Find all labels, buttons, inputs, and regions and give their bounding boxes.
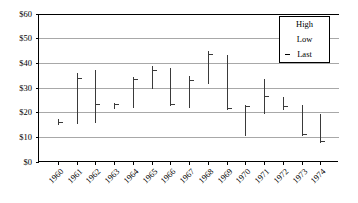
last-tick-marker: [115, 104, 119, 105]
x-tick-mark: [208, 161, 209, 165]
legend-entry-high: High: [280, 17, 329, 32]
y-tick-label: $60: [2, 10, 32, 19]
gridline: [39, 112, 339, 113]
last-tick-marker: [321, 141, 325, 142]
legend-entry-low: Low: [280, 32, 329, 47]
legend-label-last: Last: [297, 50, 312, 59]
legend-label-low: Low: [297, 35, 313, 44]
y-tick-mark: [36, 112, 39, 113]
high-low-bar: [95, 70, 96, 123]
y-tick-label: $10: [2, 133, 32, 142]
x-tick-mark: [283, 161, 284, 165]
last-tick-marker: [228, 108, 232, 109]
last-tick-marker: [153, 70, 157, 71]
high-low-bar: [208, 51, 209, 84]
y-tick-label: $20: [2, 108, 32, 117]
x-tick-mark: [152, 161, 153, 165]
high-low-bar: [227, 55, 228, 111]
x-tick-mark: [227, 161, 228, 165]
last-tick-marker: [284, 106, 288, 107]
chart-legend: High Low Last: [279, 16, 330, 63]
high-low-bar: [320, 114, 321, 144]
gridline: [39, 137, 339, 138]
y-tick-label: $50: [2, 34, 32, 43]
high-low-last-chart: $0$10$20$30$40$50$60 1960196119621963196…: [0, 0, 358, 203]
last-tick-marker: [171, 104, 175, 105]
high-low-bar: [283, 97, 284, 111]
x-tick-mark: [95, 161, 96, 165]
last-tick-marker: [134, 79, 138, 80]
x-tick-mark: [264, 161, 265, 165]
x-tick-mark: [189, 161, 190, 165]
y-tick-label: $30: [2, 84, 32, 93]
y-tick-mark: [36, 38, 39, 39]
last-tick-marker: [78, 78, 82, 79]
gridline: [39, 14, 339, 15]
x-tick-mark: [114, 161, 115, 165]
y-tick-label: $0: [2, 158, 32, 167]
last-tick-marker: [190, 80, 194, 81]
last-tick-marker: [96, 104, 100, 105]
y-tick-label: $40: [2, 59, 32, 68]
x-tick-mark: [170, 161, 171, 165]
high-low-bar: [133, 77, 134, 108]
y-tick-mark: [36, 14, 39, 15]
x-tick-mark: [58, 161, 59, 165]
x-tick-mark: [133, 161, 134, 165]
high-low-bar: [170, 68, 171, 106]
y-tick-mark: [36, 162, 39, 163]
x-tick-mark: [77, 161, 78, 165]
last-tick-marker: [246, 106, 250, 107]
legend-entry-last: Last: [280, 47, 329, 62]
x-tick-mark: [302, 161, 303, 165]
x-tick-mark: [245, 161, 246, 165]
high-low-bar: [302, 105, 303, 136]
high-low-bar: [77, 73, 78, 124]
last-tick-marker: [59, 122, 63, 123]
y-tick-mark: [36, 88, 39, 89]
legend-label-high: High: [296, 20, 313, 29]
legend-dash-icon: [285, 54, 290, 55]
last-tick-marker: [265, 96, 269, 97]
x-tick-mark: [320, 161, 321, 165]
y-tick-mark: [36, 137, 39, 138]
last-tick-marker: [303, 134, 307, 135]
high-low-bar: [245, 105, 246, 136]
y-tick-mark: [36, 63, 39, 64]
last-tick-marker: [209, 54, 213, 55]
